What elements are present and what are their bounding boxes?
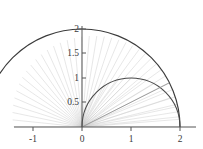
y-tick-label-2: 2 xyxy=(74,24,79,34)
x-tick-label-0: 0 xyxy=(80,134,85,144)
x-tick-label-1: 1 xyxy=(129,134,134,144)
hatched-lune-region xyxy=(100,60,195,125)
plot-canvas: -1 0 1 2 0.5 1 1.5 2 xyxy=(0,0,203,149)
polar-figure: -1 0 1 2 0.5 1 1.5 2 xyxy=(0,0,203,149)
x-tick-label-2: 2 xyxy=(178,134,183,144)
x-tick-label-neg1: -1 xyxy=(29,134,37,144)
polar-ray xyxy=(82,83,169,127)
y-tick-label-1-5: 1.5 xyxy=(67,48,79,58)
x-axis-ticks xyxy=(33,127,180,131)
y-tick-label-0-5: 0.5 xyxy=(67,97,79,107)
y-tick-label-1: 1 xyxy=(74,73,79,83)
radial-fan-outer xyxy=(13,36,180,127)
